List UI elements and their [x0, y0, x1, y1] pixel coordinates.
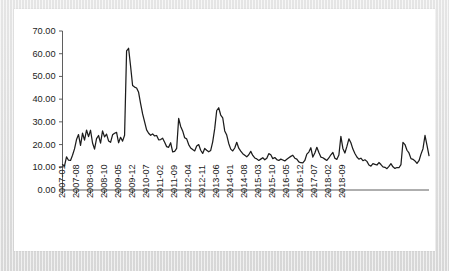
x-axis-tick-label: 2011-02: [155, 165, 165, 198]
data-series-line: [63, 48, 430, 168]
x-axis-tick-label: 2014-01: [225, 164, 235, 198]
x-axis-tick-label: 2018-09: [337, 164, 347, 198]
y-axis-tick-label: 50.00: [33, 71, 56, 81]
chart-plot-area: 0.0010.0020.0030.0040.0050.0060.0070.00 …: [14, 9, 435, 251]
x-axis-tick-label: 2012-11: [197, 165, 207, 198]
chart-card: 0.0010.0020.0030.0040.0050.0060.0070.00 …: [14, 9, 435, 251]
x-axis-tick-label: 2009-05: [113, 164, 123, 198]
x-axis-tick-label: 2008-03: [85, 164, 95, 198]
y-axis-tick-label: 10.00: [33, 162, 56, 172]
y-axis-tick-label: 30.00: [33, 117, 56, 127]
x-axis-tick-label: 2014-08: [239, 164, 249, 198]
x-axis-tick-label: 2012-04: [183, 164, 193, 198]
x-axis: 2007-012007-082008-032008-102009-052009-…: [57, 164, 429, 198]
y-axis-tick-label: 0.00: [38, 185, 56, 195]
x-axis-tick-label: 2008-10: [99, 164, 109, 198]
x-axis-tick-label: 2007-01: [57, 164, 67, 198]
x-axis-tick-label: 2016-12: [295, 164, 305, 198]
y-axis-tick-label: 20.00: [33, 140, 56, 150]
x-axis-tick-label: 2016-05: [281, 164, 291, 198]
y-axis-tick-label: 70.00: [33, 26, 56, 36]
x-axis-tick-label: 2011-09: [169, 165, 179, 198]
x-axis-tick-label: 2018-02: [323, 164, 333, 198]
x-axis-tick-label: 2015-03: [253, 164, 263, 198]
x-axis-tick-label: 2017-07: [309, 164, 319, 198]
x-axis-tick-label: 2007-08: [71, 164, 81, 198]
line-chart: 0.0010.0020.0030.0040.0050.0060.0070.00 …: [14, 9, 435, 251]
y-axis-tick-label: 60.00: [33, 49, 56, 59]
y-axis-tick-label: 40.00: [33, 94, 56, 104]
x-axis-tick-label: 2010-07: [141, 164, 151, 198]
x-axis-tick-label: 2013-06: [211, 164, 221, 198]
x-axis-tick-label: 2009-12: [127, 164, 137, 198]
x-axis-tick-label: 2015-10: [267, 164, 277, 198]
